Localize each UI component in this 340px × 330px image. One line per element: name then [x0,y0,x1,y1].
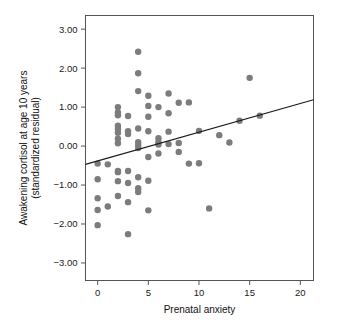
data-point [115,104,121,110]
data-point [94,176,100,182]
data-point [125,113,131,119]
y-tick-label: 1.00 [59,101,78,112]
data-point [135,125,141,131]
data-point [145,114,151,120]
data-point [135,49,141,55]
scatter-plot-figure: Awakening cortisol at age 10 years(stand… [0,0,340,330]
chart-canvas: Awakening cortisol at age 10 years(stand… [0,0,340,330]
data-point [186,99,192,105]
data-point [125,180,131,186]
data-point [115,130,121,136]
data-point [155,104,161,110]
data-point [145,103,151,109]
data-point [216,132,222,138]
data-point [135,189,141,195]
data-point [135,70,141,76]
data-point [246,75,252,81]
x-axis-ticks: 05101520 [95,281,306,299]
data-point [145,128,151,134]
x-tick-label: 20 [295,287,306,298]
data-point [125,131,131,137]
y-tick-label: 0.00 [59,140,78,151]
data-point [176,140,182,146]
plot-frame [86,16,314,281]
data-point [155,150,161,156]
x-tick-label: 15 [244,287,255,298]
data-point [115,193,121,199]
y-tick-label: −3.00 [53,257,77,268]
data-point [125,199,131,205]
data-point [145,93,151,99]
data-point [135,88,141,94]
data-point [125,168,131,174]
data-point [115,112,121,118]
data-point [176,100,182,106]
data-point [94,207,100,213]
x-axis-title-text: Prenatal anxiety [164,304,236,315]
data-point [165,110,171,116]
y-tick-label: 2.00 [59,63,78,74]
x-tick-label: 5 [146,287,151,298]
y-axis-title-line-1: Awakening cortisol at age 10 years [18,71,29,226]
data-point [145,178,151,184]
x-tick-label: 0 [95,287,100,298]
data-point [196,160,202,166]
y-axis-ticks: 3.002.001.000.00−1.00−2.00−3.00 [53,24,85,269]
data-point [165,128,171,134]
data-point [206,205,212,211]
y-axis-title: Awakening cortisol at age 10 years(stand… [18,71,41,226]
data-point [115,169,121,175]
data-point [186,160,192,166]
y-tick-label: −1.00 [53,179,77,190]
data-point [105,161,111,167]
x-axis-title: Prenatal anxiety [164,304,236,315]
y-axis-title-line-2: (standardized residual) [30,97,41,199]
data-point [226,139,232,145]
data-point [115,140,121,146]
data-point [115,178,121,184]
y-tick-label: −2.00 [53,218,77,229]
y-tick-label: 3.00 [59,24,78,35]
data-point [105,203,111,209]
data-points-layer [94,49,263,238]
plot-frame-rect [86,16,314,281]
data-point [125,231,131,237]
data-point [145,154,151,160]
data-point [145,207,151,213]
data-point [135,174,141,180]
data-point [94,195,100,201]
data-point [94,222,100,228]
data-point [165,90,171,96]
x-tick-label: 10 [194,287,205,298]
data-point [176,149,182,155]
